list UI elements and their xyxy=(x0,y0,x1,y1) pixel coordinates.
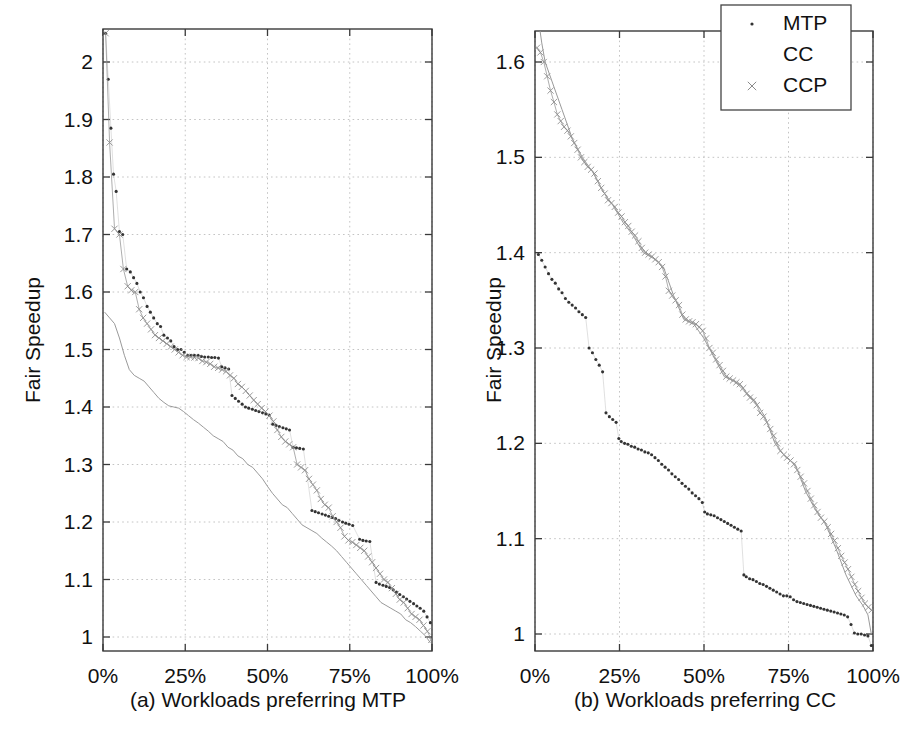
series-ccp xyxy=(103,30,435,643)
y-tick-label: 1.9 xyxy=(64,108,93,131)
legend-label-mtp: MTP xyxy=(783,11,827,34)
panel-b-svg: 11.11.21.31.41.51.6 0%25%50%75%100% MTPC… xyxy=(460,0,920,739)
x-tick-label: 50% xyxy=(246,664,288,687)
legend-b[interactable]: MTPCCCCP xyxy=(721,5,851,110)
grid-lines-a xyxy=(103,29,432,651)
panel-caption-b: (b) Workloads preferring CC xyxy=(574,688,836,711)
y-axis-title-b: Fair Speedup xyxy=(482,277,505,403)
series-mtp xyxy=(537,253,873,647)
series-mtp xyxy=(104,32,432,624)
chart-panel-a: 11.11.21.31.41.51.61.71.81.92 0%25%50%75… xyxy=(0,0,460,739)
y-tick-label: 1.4 xyxy=(496,241,526,264)
chart-panel-b: 11.11.21.31.41.51.6 0%25%50%75%100% MTPC… xyxy=(460,0,920,739)
x-tick-label: 25% xyxy=(164,664,206,687)
y-tick-label: 1.3 xyxy=(64,453,93,476)
y-tick-label: 1.5 xyxy=(496,145,525,168)
panel-caption-a: (a) Workloads preferring MTP xyxy=(130,688,406,711)
y-tick-labels-a: 11.11.21.31.41.51.61.71.81.92 xyxy=(64,50,94,648)
figure-container: 11.11.21.31.41.51.61.71.81.92 0%25%50%75… xyxy=(0,0,920,739)
y-tick-label: 2 xyxy=(81,50,93,73)
y-tick-label: 1.2 xyxy=(496,431,525,454)
x-tick-label: 75% xyxy=(329,664,371,687)
y-tick-label: 1.1 xyxy=(496,527,525,550)
y-tick-label: 1.7 xyxy=(64,223,93,246)
y-tick-label: 1 xyxy=(513,622,525,645)
data-series-a xyxy=(103,30,435,643)
y-tick-label: 1.6 xyxy=(496,50,525,73)
x-tick-label: 100% xyxy=(846,664,900,687)
y-tick-label: 1.5 xyxy=(64,338,93,361)
x-tick-label: 0% xyxy=(520,664,550,687)
y-axis-title-a: Fair Speedup xyxy=(21,277,44,403)
x-tick-label: 50% xyxy=(683,664,725,687)
x-tick-label: 25% xyxy=(598,664,640,687)
legend-label-cc: CC xyxy=(783,42,813,65)
y-tick-label: 1.4 xyxy=(64,395,94,418)
x-tick-labels-b: 0%25%50%75%100% xyxy=(520,664,900,687)
y-tick-label: 1.1 xyxy=(64,568,93,591)
panel-a-svg: 11.11.21.31.41.51.61.71.81.92 0%25%50%75… xyxy=(0,0,460,739)
legend-label-ccp: CCP xyxy=(783,73,827,96)
y-tick-label: 1.6 xyxy=(64,280,93,303)
y-tick-label: 1.2 xyxy=(64,510,93,533)
y-tick-label: 1.8 xyxy=(64,165,93,188)
x-tick-labels-a: 0%25%50%75%100% xyxy=(88,664,459,687)
x-tick-label: 100% xyxy=(405,664,459,687)
y-tick-label: 1 xyxy=(81,625,93,648)
series-ccp xyxy=(534,45,875,614)
x-tick-label: 0% xyxy=(88,664,118,687)
x-tick-label: 75% xyxy=(767,664,809,687)
